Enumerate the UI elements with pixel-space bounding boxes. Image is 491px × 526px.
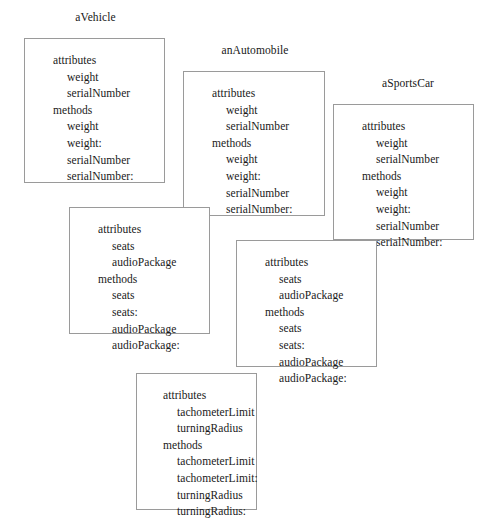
methods-section-header: methods bbox=[362, 168, 442, 185]
method-item: weight: bbox=[53, 135, 133, 152]
method-item: seats: bbox=[265, 337, 347, 354]
attributes-list: seatsaudioPackage bbox=[265, 271, 347, 304]
box-content: attributesweightserialNumbermethodsweigh… bbox=[362, 111, 442, 251]
box-content: attributesweightserialNumbermethodsweigh… bbox=[212, 78, 292, 218]
sportscar-inherited-automobile-box: attributesseatsaudioPackagemethodsseatss… bbox=[236, 240, 377, 367]
automobile-inherited-vehicle-box: attributesweightserialNumbermethodsweigh… bbox=[183, 71, 325, 216]
attributes-list: weightserialNumber bbox=[53, 69, 133, 102]
attributes-section-header: attributes bbox=[53, 52, 133, 69]
attribute-item: weight bbox=[212, 102, 292, 119]
attributes-section-header: attributes bbox=[212, 85, 292, 102]
object-inheritance-diagram: aVehicleanAutomobileaSportsCarattributes… bbox=[0, 0, 491, 526]
sportscar-own-box: attributestachometerLimitturningRadiusme… bbox=[136, 373, 257, 510]
attributes-section-header: attributes bbox=[98, 221, 180, 238]
object-title-label: aVehicle bbox=[48, 11, 143, 24]
method-item: turningRadius bbox=[163, 487, 258, 504]
methods-section-header: methods bbox=[265, 304, 347, 321]
method-item: seats bbox=[98, 287, 180, 304]
object-title-label: aSportsCar bbox=[355, 77, 461, 90]
methods-section-header: methods bbox=[163, 437, 258, 454]
sportscar-inherited-vehicle-box: attributesweightserialNumbermethodsweigh… bbox=[333, 104, 474, 240]
method-item: weight: bbox=[212, 168, 292, 185]
box-content: attributesseatsaudioPackagemethodsseatss… bbox=[265, 247, 347, 387]
vehicle-public-box: attributesweightserialNumbermethodsweigh… bbox=[24, 38, 165, 183]
method-item: tachometerLimit bbox=[163, 453, 258, 470]
methods-section-header: methods bbox=[212, 135, 292, 152]
method-item: audioPackage bbox=[98, 321, 180, 338]
attribute-item: audioPackage bbox=[265, 287, 347, 304]
attribute-item: serialNumber bbox=[53, 85, 133, 102]
methods-list: weightweight:serialNumberserialNumber: bbox=[53, 118, 133, 184]
box-content: attributestachometerLimitturningRadiusme… bbox=[163, 380, 258, 520]
method-item: serialNumber bbox=[212, 185, 292, 202]
method-item: weight bbox=[362, 184, 442, 201]
attributes-list: weightserialNumber bbox=[362, 135, 442, 168]
automobile-own-box: attributesseatsaudioPackagemethodsseatss… bbox=[69, 207, 210, 334]
method-item: weight bbox=[53, 118, 133, 135]
method-item: audioPackage: bbox=[265, 370, 347, 387]
attribute-item: seats bbox=[265, 271, 347, 288]
attribute-item: tachometerLimit bbox=[163, 404, 258, 421]
attribute-item: weight bbox=[53, 69, 133, 86]
attribute-item: weight bbox=[362, 135, 442, 152]
attributes-list: weightserialNumber bbox=[212, 102, 292, 135]
attributes-list: seatsaudioPackage bbox=[98, 238, 180, 271]
method-item: serialNumber bbox=[362, 218, 442, 235]
method-item: serialNumber: bbox=[212, 201, 292, 218]
methods-list: seatsseats:audioPackageaudioPackage: bbox=[98, 287, 180, 353]
method-item: weight: bbox=[362, 201, 442, 218]
method-item: weight bbox=[212, 151, 292, 168]
methods-list: weightweight:serialNumberserialNumber: bbox=[212, 151, 292, 217]
method-item: turningRadius: bbox=[163, 503, 258, 520]
methods-section-header: methods bbox=[53, 102, 133, 119]
method-item: serialNumber bbox=[53, 152, 133, 169]
attribute-item: seats bbox=[98, 238, 180, 255]
method-item: tachometerLimit: bbox=[163, 470, 258, 487]
method-item: serialNumber: bbox=[53, 168, 133, 185]
attribute-item: audioPackage bbox=[98, 254, 180, 271]
method-item: audioPackage bbox=[265, 354, 347, 371]
method-item: seats bbox=[265, 320, 347, 337]
methods-list: seatsseats:audioPackageaudioPackage: bbox=[265, 320, 347, 386]
attributes-section-header: attributes bbox=[163, 387, 258, 404]
methods-list: tachometerLimittachometerLimit:turningRa… bbox=[163, 453, 258, 519]
box-content: attributesweightserialNumbermethodsweigh… bbox=[53, 45, 133, 185]
attribute-item: turningRadius bbox=[163, 420, 258, 437]
attributes-section-header: attributes bbox=[265, 254, 347, 271]
attribute-item: serialNumber bbox=[362, 151, 442, 168]
object-title-label: anAutomobile bbox=[196, 44, 314, 57]
attributes-list: tachometerLimitturningRadius bbox=[163, 404, 258, 437]
method-item: seats: bbox=[98, 304, 180, 321]
methods-section-header: methods bbox=[98, 271, 180, 288]
box-content: attributesseatsaudioPackagemethodsseatss… bbox=[98, 214, 180, 354]
method-item: audioPackage: bbox=[98, 337, 180, 354]
attribute-item: serialNumber bbox=[212, 118, 292, 135]
attributes-section-header: attributes bbox=[362, 118, 442, 135]
